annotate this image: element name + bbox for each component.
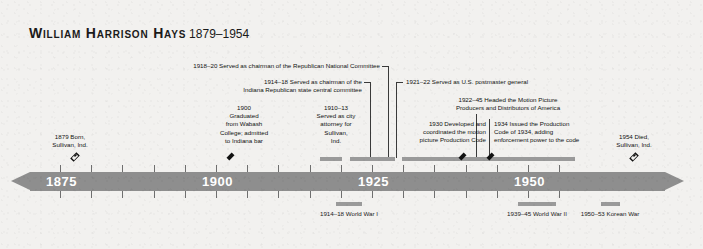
- leader-postmaster-horizontal: [396, 82, 403, 83]
- axis-arrow-left: [11, 172, 30, 190]
- page-title: William Harrison Hays1879–1954: [29, 25, 249, 41]
- axis-tick-1950-up: [528, 165, 529, 172]
- axis-tick-1955-dn: [559, 191, 560, 198]
- span-bar-city-attorney: [320, 157, 342, 161]
- axis-tick-1885-up: [122, 165, 123, 172]
- axis-tick-1890-up: [154, 165, 155, 172]
- axis-bar: [30, 172, 665, 191]
- callout-postmaster-general: 1921–22 Served as U.S. postmaster genera…: [406, 78, 624, 86]
- axis-tick-1915-dn: [310, 191, 311, 198]
- callout-rnc-chairman: 1918–20 Served as chairman of the Republ…: [140, 62, 380, 70]
- axis-tick-1930-dn: [403, 191, 404, 198]
- axis-label-1925: 1925: [358, 174, 389, 189]
- span-bar-mppda-head: [410, 157, 575, 161]
- subject-life-years: 1879–1954: [189, 27, 249, 41]
- axis-tick-1880-dn: [91, 191, 92, 198]
- axis-tick-1875-dn: [60, 191, 61, 198]
- axis-tick-1945-dn: [497, 191, 498, 198]
- axis-tick-1900-up: [216, 165, 217, 172]
- axis-label-1875: 1875: [46, 174, 77, 189]
- axis-tick-1915-up: [310, 165, 311, 172]
- span-bar-postmaster-general: [402, 157, 410, 161]
- axis-tick-1930-up: [403, 165, 404, 172]
- axis-tick-1895-dn: [185, 191, 186, 198]
- axis-tick-1920-dn: [341, 191, 342, 198]
- axis-tick-1900-dn: [216, 191, 217, 198]
- axis-tick-1920-up: [341, 165, 342, 172]
- axis-tick-1885-dn: [122, 191, 123, 198]
- leader-rnc-chairman-vertical: [388, 66, 389, 158]
- axis-tick-1925-dn: [372, 191, 373, 198]
- axis-tick-1950-dn: [528, 191, 529, 198]
- war-label-ww1: 1914–18 World War I: [309, 210, 389, 218]
- callout-city-attorney: 1910–13 Served as city attorney for Sull…: [298, 104, 374, 145]
- war-label-ww2: 1939–45 World War II: [497, 210, 577, 218]
- axis-tick-1935-up: [434, 165, 435, 172]
- subject-name: William Harrison Hays: [29, 25, 186, 41]
- callout-graduated: 1900 Graduated from Wabash College; admi…: [185, 104, 303, 145]
- axis-tick-1910-up: [278, 165, 279, 172]
- callout-died: 1954 Died, Sullivan, Ind.: [592, 133, 676, 149]
- callout-indiana-gop-chairman: 1914–18 Served as chairman of the Indian…: [150, 78, 362, 94]
- timeline-axis: 1875 1900 1925 1950: [0, 172, 703, 194]
- callout-mppda-head: 1922–45 Headed the Motion Picture Produc…: [410, 96, 606, 112]
- callout-production-code-developed: 1930 Developed and coordinated the motio…: [400, 120, 486, 145]
- axis-tick-1880-up: [91, 165, 92, 172]
- axis-tick-1905-up: [247, 165, 248, 172]
- axis-label-1950: 1950: [514, 174, 545, 189]
- span-bar-indiana-gop-chairman: [350, 157, 380, 161]
- leader-postmaster-vertical: [396, 82, 397, 158]
- axis-tick-1905-dn: [247, 191, 248, 198]
- axis-tick-1935-dn: [434, 191, 435, 198]
- axis-tick-1945-up: [497, 165, 498, 172]
- callout-born: 1879 Born, Sullivan, Ind.: [28, 133, 112, 149]
- leader-code-divider-left: [489, 119, 490, 158]
- axis-tick-1940-up: [466, 165, 467, 172]
- axis-tick-1910-dn: [278, 191, 279, 198]
- axis-tick-1895-up: [185, 165, 186, 172]
- war-label-korea: 1950–53 Korean War: [570, 210, 650, 218]
- axis-arrow-right: [665, 172, 684, 190]
- axis-tick-1955-up: [559, 165, 560, 172]
- axis-tick-1875-up: [60, 165, 61, 172]
- axis-tick-1940-dn: [466, 191, 467, 198]
- span-bar-rnc-chairman: [380, 157, 395, 161]
- axis-tick-1890-dn: [154, 191, 155, 198]
- war-bar-ww1: [336, 202, 362, 206]
- axis-tick-1925-up: [372, 165, 373, 172]
- axis-label-1900: 1900: [202, 174, 233, 189]
- war-bar-korea: [601, 202, 620, 206]
- timeline-infographic: William Harrison Hays1879–1954 1918–20 S…: [0, 0, 703, 249]
- war-bar-ww2: [518, 202, 556, 206]
